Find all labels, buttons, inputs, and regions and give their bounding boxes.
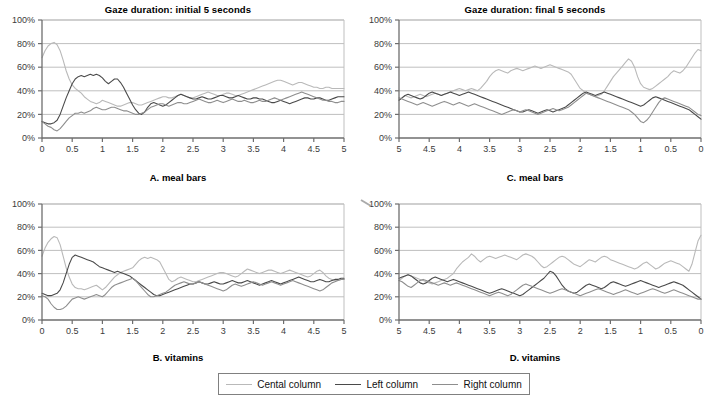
svg-text:2: 2 [160,144,165,154]
svg-text:2.5: 2.5 [187,144,200,154]
legend-label-right: Right column [463,379,521,390]
panel-b-caption: B. vitamins [0,352,356,363]
svg-text:100%: 100% [12,199,35,209]
svg-text:0%: 0% [22,133,35,143]
svg-text:80%: 80% [374,39,392,49]
svg-text:5: 5 [396,326,401,336]
svg-text:0: 0 [698,326,703,336]
svg-text:1: 1 [638,144,643,154]
svg-text:0%: 0% [379,315,392,325]
svg-text:0.5: 0.5 [66,144,79,154]
panel-a-caption: A. meal bars [0,172,356,183]
svg-text:1.5: 1.5 [604,144,617,154]
svg-text:1.5: 1.5 [126,144,139,154]
svg-text:0.5: 0.5 [66,326,79,336]
panel-a: Gaze duration: initial 5 seconds 0%20%40… [0,4,356,200]
svg-text:3: 3 [517,144,522,154]
svg-text:4: 4 [457,144,462,154]
svg-text:40%: 40% [374,269,392,279]
svg-text:20%: 20% [17,292,35,302]
svg-text:0: 0 [698,144,703,154]
panel-c-title: Gaze duration: final 5 seconds [357,4,713,15]
svg-text:3.5: 3.5 [247,326,260,336]
svg-text:1.5: 1.5 [126,326,139,336]
legend-swatch-right [432,384,458,385]
svg-text:4: 4 [457,326,462,336]
legend: Cental column Left column Right column [218,373,530,395]
panel-d-caption: D. vitamins [357,352,713,363]
panel-d-plot: 0%20%40%60%80%100%54.543.532.521.510.50 [357,196,713,354]
svg-text:3: 3 [517,326,522,336]
svg-text:4: 4 [281,144,286,154]
svg-text:2: 2 [578,144,583,154]
svg-text:2: 2 [160,326,165,336]
legend-item-left: Left column [335,379,418,390]
legend-item-central: Cental column [226,379,321,390]
panel-d: 0%20%40%60%80%100%54.543.532.521.510.50 … [357,196,713,376]
svg-text:0: 0 [39,326,44,336]
svg-text:40%: 40% [17,269,35,279]
legend-swatch-central [226,384,252,385]
svg-text:2.5: 2.5 [187,326,200,336]
legend-label-central: Cental column [257,379,321,390]
svg-text:2.5: 2.5 [544,144,557,154]
panel-c-caption: C. meal bars [357,172,713,183]
svg-text:0%: 0% [379,133,392,143]
panel-b: 0%20%40%60%80%100%00.511.522.533.544.55 … [0,196,356,376]
svg-text:1: 1 [638,326,643,336]
legend-item-right: Right column [432,379,521,390]
svg-text:5: 5 [341,144,346,154]
svg-text:100%: 100% [369,199,392,209]
svg-text:0%: 0% [22,315,35,325]
svg-text:2.5: 2.5 [544,326,557,336]
svg-text:5: 5 [396,144,401,154]
panel-c-plot: 0%20%40%60%80%100%54.543.532.521.510.50 [357,4,713,172]
svg-text:4.5: 4.5 [423,144,436,154]
svg-text:3.5: 3.5 [483,144,496,154]
svg-text:0.5: 0.5 [665,326,678,336]
svg-text:1.5: 1.5 [604,326,617,336]
legend-label-left: Left column [366,379,418,390]
panel-a-title: Gaze duration: initial 5 seconds [0,4,356,15]
panel-c: Gaze duration: final 5 seconds 0%20%40%6… [357,4,713,200]
svg-text:20%: 20% [17,110,35,120]
svg-text:40%: 40% [374,86,392,96]
svg-text:20%: 20% [374,110,392,120]
svg-text:80%: 80% [17,39,35,49]
svg-text:60%: 60% [17,246,35,256]
svg-text:4: 4 [281,326,286,336]
svg-text:1: 1 [100,326,105,336]
svg-text:0: 0 [39,144,44,154]
svg-text:3.5: 3.5 [483,326,496,336]
svg-text:20%: 20% [374,292,392,302]
svg-text:60%: 60% [374,246,392,256]
svg-text:5: 5 [341,326,346,336]
svg-text:4.5: 4.5 [423,326,436,336]
svg-text:60%: 60% [17,62,35,72]
panel-b-plot: 0%20%40%60%80%100%00.511.522.533.544.55 [0,196,356,354]
svg-text:40%: 40% [17,86,35,96]
svg-text:60%: 60% [374,62,392,72]
svg-text:3.5: 3.5 [247,144,260,154]
svg-text:4.5: 4.5 [308,144,321,154]
svg-text:3: 3 [221,144,226,154]
svg-text:80%: 80% [17,222,35,232]
svg-text:4.5: 4.5 [308,326,321,336]
svg-text:100%: 100% [369,15,392,25]
svg-text:0.5: 0.5 [665,144,678,154]
svg-text:100%: 100% [12,15,35,25]
legend-swatch-left [335,384,361,385]
svg-text:1: 1 [100,144,105,154]
gaze-duration-figure: Gaze duration: initial 5 seconds 0%20%40… [0,0,713,402]
svg-text:2: 2 [578,326,583,336]
panel-a-plot: 0%20%40%60%80%100%00.511.522.533.544.55 [0,4,356,172]
svg-text:80%: 80% [374,222,392,232]
svg-text:3: 3 [221,326,226,336]
